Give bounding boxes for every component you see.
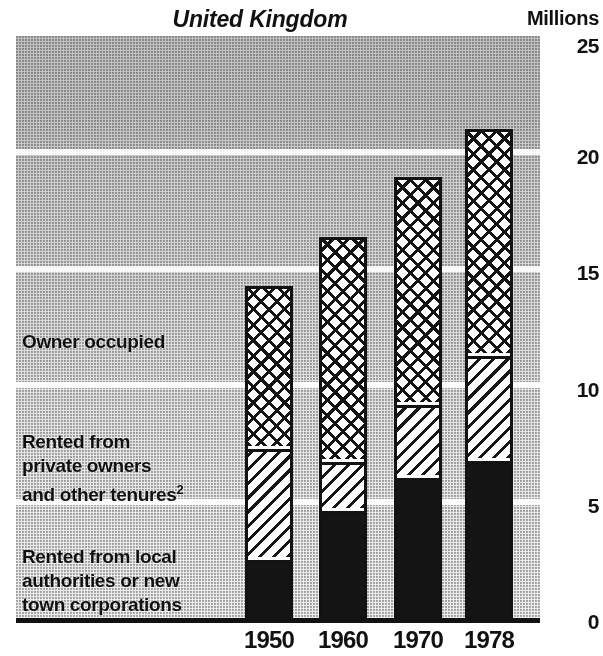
gridline-15	[16, 266, 540, 272]
y-tick-15: 15	[541, 261, 599, 285]
bar-1960-segment-rented-private	[322, 462, 364, 508]
y-tick-25: 25	[541, 34, 599, 58]
footnote-marker-2: 2	[177, 482, 184, 497]
bar-1978[interactable]	[465, 129, 513, 620]
bar-1978-segment-rented-local	[468, 461, 510, 620]
page-title: United Kingdom	[0, 6, 520, 33]
bar-1970[interactable]	[394, 177, 442, 620]
x-axis-baseline	[16, 618, 540, 623]
y-tick-10: 10	[541, 378, 599, 402]
x-tick-1978: 1978	[444, 626, 534, 654]
bar-1960-segment-rented-local	[322, 511, 364, 620]
bar-1970-segment-rented-local	[397, 478, 439, 620]
gridline-20	[16, 149, 540, 155]
legend-label-rented-private: Rented from private owners and other ten…	[22, 430, 183, 507]
bar-1950[interactable]	[245, 286, 293, 620]
legend-label-rented-local: Rented from local authorities or new tow…	[22, 545, 182, 617]
bar-1978-segment-owner-occupied	[468, 132, 510, 353]
bar-1950-segment-owner-occupied	[248, 289, 290, 446]
bar-1960-segment-owner-occupied	[322, 240, 364, 459]
y-tick-0: 0	[541, 610, 599, 634]
legend-label-rented-private-text: Rented from private owners and other ten…	[22, 431, 177, 505]
bar-1960[interactable]	[319, 237, 367, 620]
bar-1950-segment-rented-local	[248, 560, 290, 620]
legend-label-owner-occupied: Owner occupied	[22, 330, 165, 354]
bar-1950-segment-rented-private	[248, 449, 290, 557]
plot-area	[16, 36, 540, 620]
y-tick-5: 5	[541, 494, 599, 518]
bar-1970-segment-rented-private	[397, 405, 439, 475]
bar-1978-segment-rented-private	[468, 356, 510, 458]
bar-1970-segment-owner-occupied	[397, 180, 439, 402]
y-tick-20: 20	[541, 145, 599, 169]
y-axis-units-label: Millions	[527, 7, 599, 30]
